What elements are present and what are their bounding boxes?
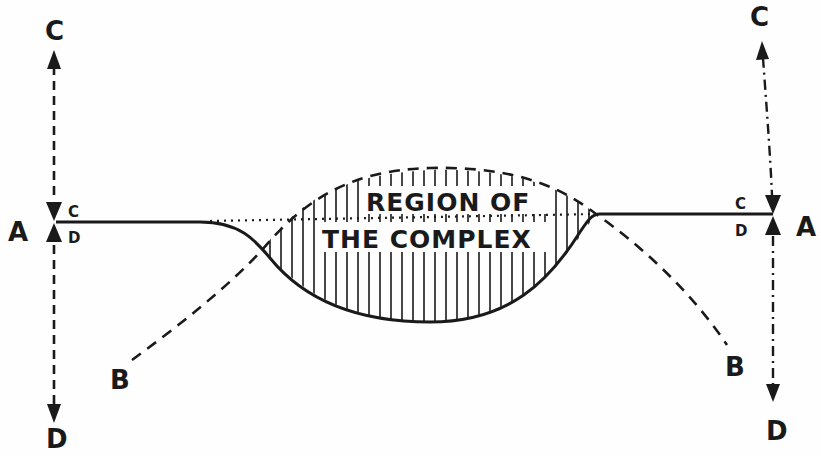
left-axis bbox=[46, 50, 62, 423]
arrow-converge-bottom-icon bbox=[765, 216, 781, 235]
arrow-down-icon bbox=[766, 384, 780, 402]
label-left-B: B bbox=[110, 365, 130, 395]
label-right-B: B bbox=[725, 352, 745, 382]
arrow-down-icon bbox=[47, 404, 61, 423]
label-right-small-D: D bbox=[735, 222, 747, 240]
right-axis bbox=[756, 41, 781, 402]
diagram-canvas: C A C D D B C A C D D B REGION OF THE CO… bbox=[0, 0, 821, 456]
label-left-A: A bbox=[8, 217, 28, 247]
label-left-top-C: C bbox=[45, 16, 64, 46]
label-right-bottom-D: D bbox=[766, 416, 788, 446]
arrow-converge-top-icon bbox=[46, 202, 62, 221]
region-label-line1: REGION OF bbox=[366, 188, 530, 217]
label-right-A: A bbox=[796, 212, 816, 242]
diagram-svg: C A C D D B C A C D D B REGION OF THE CO… bbox=[0, 0, 821, 456]
label-right-small-C: C bbox=[735, 195, 746, 213]
label-right-top-C: C bbox=[750, 2, 769, 32]
label-left-small-D: D bbox=[68, 229, 80, 247]
arrow-up-icon bbox=[756, 41, 769, 60]
region-label-line2: THE COMPLEX bbox=[322, 225, 532, 254]
arrow-up-icon bbox=[47, 50, 61, 69]
label-left-bottom-D: D bbox=[46, 424, 68, 454]
label-left-small-C: C bbox=[68, 203, 79, 221]
arrow-converge-top-icon bbox=[765, 195, 781, 214]
arrow-converge-bottom-icon bbox=[46, 223, 62, 242]
